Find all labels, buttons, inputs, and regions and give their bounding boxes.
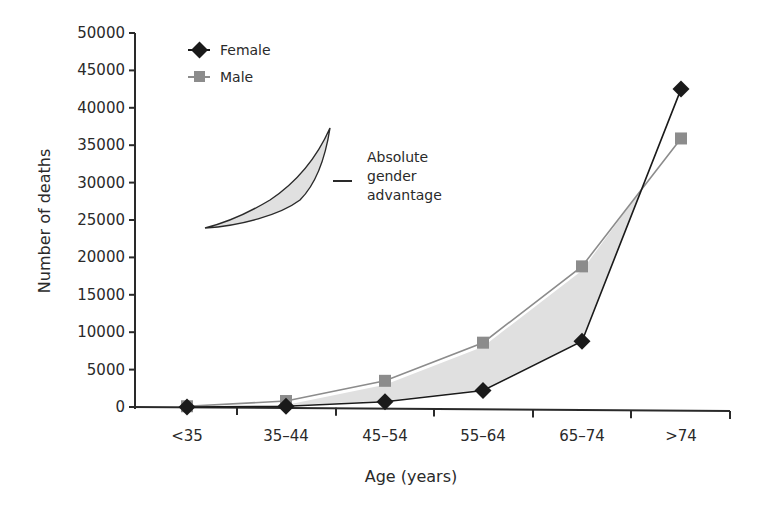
male-square-marker (576, 260, 588, 272)
band-legend-shape (205, 128, 330, 228)
annotation-line-3: advantage (367, 187, 442, 203)
y-tick-label: 5000 (87, 361, 125, 379)
x-tick-label: 55–64 (460, 427, 506, 445)
y-tick-label: 0 (115, 398, 125, 416)
legend-label-female: Female (220, 42, 271, 58)
gender-advantage-band (187, 189, 642, 406)
y-tick-label: 45000 (77, 61, 125, 79)
y-tick-label: 10000 (77, 323, 125, 341)
legend: Female Male (188, 42, 271, 85)
y-tick-label: 40000 (77, 99, 125, 117)
male-square-marker (379, 375, 391, 387)
male-square-marker (477, 337, 489, 349)
square-marker-icon (194, 71, 205, 82)
x-tick-label: <35 (171, 427, 203, 445)
annotation-line-1: Absolute (367, 149, 428, 165)
x-tick-label: >74 (665, 427, 697, 445)
legend-item-male: Male (188, 69, 253, 85)
x-axis-title: Age (years) (365, 467, 458, 486)
x-tick-label: 65–74 (559, 427, 605, 445)
y-tick-label: 25000 (77, 211, 125, 229)
y-tick-label: 20000 (77, 248, 125, 266)
female-diamond-marker (673, 81, 690, 98)
chart-canvas: 0500010000150002000025000300003500040000… (0, 0, 767, 512)
annotation-gender-advantage: Absolute gender advantage (205, 128, 442, 228)
male-square-marker (675, 132, 687, 144)
diamond-marker-icon (191, 42, 208, 59)
x-tick-label: 45–54 (362, 427, 408, 445)
annotation-line-2: gender (367, 168, 417, 184)
gender-advantage-area (187, 189, 642, 406)
y-axis-title: Number of deaths (35, 149, 54, 293)
y-tick-label: 15000 (77, 286, 125, 304)
y-tick-label: 35000 (77, 136, 125, 154)
legend-item-female: Female (188, 42, 271, 59)
y-tick-label: 30000 (77, 174, 125, 192)
y-tick-label: 50000 (77, 24, 125, 42)
legend-label-male: Male (220, 69, 253, 85)
x-tick-label: 35–44 (263, 427, 309, 445)
x-axis-line (131, 407, 730, 411)
